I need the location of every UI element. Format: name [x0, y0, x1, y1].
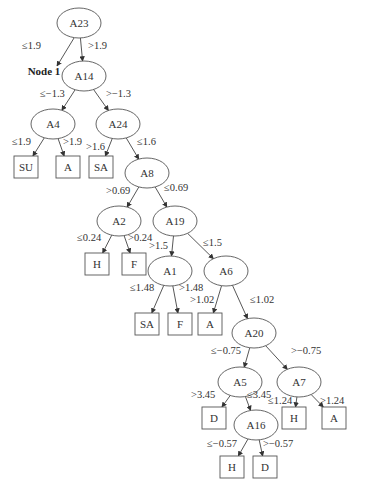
edge-label: >3.45: [191, 389, 215, 400]
edge-n_a16-to-l_h3: [238, 439, 248, 456]
node-label: A4: [46, 118, 60, 130]
edge-label: >1.9: [63, 136, 82, 147]
node-label: A20: [245, 327, 264, 339]
edge-n_a23-to-n_a14: [80, 38, 82, 61]
decision-node-a24: A24: [96, 109, 140, 139]
edge-n_a5-to-l_d1: [222, 395, 230, 407]
node-label: A5: [233, 376, 247, 388]
edge-label: >−0.57: [263, 438, 293, 449]
node-label: A1: [163, 265, 176, 277]
node-label: A2: [112, 215, 125, 227]
edge-n_a19-to-n_a1: [171, 236, 173, 256]
edge-label: ≤−0.75: [211, 345, 241, 356]
edge-n_a20-to-n_a5: [244, 348, 250, 368]
edge-label: ≤1.9: [22, 40, 41, 51]
edge-n_a1-to-l_f2: [173, 286, 178, 313]
leaf-node-h: H: [282, 407, 306, 429]
edge-label: >1.6: [86, 141, 105, 152]
leaf-node-d: D: [202, 407, 226, 429]
leaf-node-a: A: [56, 156, 80, 178]
node-label: A16: [247, 419, 266, 431]
node-label: SA: [94, 161, 108, 173]
node-label: A24: [109, 118, 128, 130]
decision-node-a20: A20: [232, 318, 276, 348]
edge-label: >1.9: [88, 40, 107, 51]
node-label: F: [131, 258, 137, 270]
node-label: A7: [292, 376, 306, 388]
edge-label: >0.69: [106, 185, 130, 196]
node-label: H: [290, 412, 298, 424]
leaf-node-su: SU: [14, 156, 38, 178]
edge-label: >1.24: [320, 395, 345, 406]
edge-n_a6-to-l_a2: [213, 286, 221, 313]
edge-n_a4-to-l_su: [33, 138, 44, 156]
edge-label: >1.02: [190, 294, 214, 305]
edge-n_a23-to-node1: [57, 38, 74, 66]
node-label: A19: [166, 215, 185, 227]
node-label: D: [210, 412, 218, 424]
node-label: A8: [140, 167, 154, 179]
edge-label: >−0.75: [291, 345, 321, 356]
node-label: H: [228, 461, 236, 473]
edge-label: ≤1.5: [203, 237, 222, 248]
node-label: A: [206, 318, 214, 330]
decision-node-a6: A6: [204, 256, 248, 286]
edge-label: ≤0.69: [164, 182, 188, 193]
edge-label: >1.5: [149, 240, 168, 251]
edge-label: >1.48: [179, 282, 203, 293]
node-label: SA: [140, 318, 154, 330]
edge-n_a7-to-l_h2: [296, 397, 297, 407]
edge-label: ≤1.24: [268, 395, 293, 406]
node-label: F: [177, 318, 183, 330]
leaf-node-h: H: [220, 456, 244, 478]
decision-node-a23: A23: [57, 8, 101, 38]
leaf-node-a: A: [198, 313, 222, 335]
node-label: H: [93, 258, 101, 270]
leaf-node-h: H: [85, 253, 109, 275]
leaf-node-d: D: [253, 456, 277, 478]
node-label: A6: [219, 265, 233, 277]
decision-node-a14: A14: [62, 61, 106, 91]
edge-label: >−1.3: [106, 88, 131, 99]
decision-node-a16: A16: [234, 410, 278, 440]
node-label: A23: [70, 17, 89, 29]
decision-node-a4: A4: [31, 109, 75, 139]
edge-label: ≤−1.3: [40, 88, 65, 99]
edge-label: ≤1.02: [250, 294, 274, 305]
node-label: SU: [19, 161, 33, 173]
leaf-node-f: F: [168, 313, 192, 335]
node-label: A: [330, 412, 338, 424]
edge-label: ≤1.6: [137, 136, 156, 147]
leaf-node-sa: SA: [135, 313, 159, 335]
decision-tree-diagram: A23A14A4A24SUASAA8A2A19HFA1A6SAFAA20A5A7…: [0, 0, 366, 490]
edge-n_a24-to-l_sa1: [105, 138, 112, 156]
node-label: A: [64, 161, 72, 173]
edge-label: ≤1.9: [12, 136, 31, 147]
node-label: A14: [75, 70, 94, 82]
nodes-layer: A23A14A4A24SUASAA8A2A19HFA1A6SAFAA20A5A7…: [14, 8, 346, 478]
decision-node-a19: A19: [153, 206, 197, 236]
node-label: D: [261, 461, 269, 473]
edges-layer: [33, 38, 323, 456]
edge-label: ≤0.24: [77, 232, 102, 243]
edge-n_a2-to-l_h1: [103, 235, 112, 253]
edge-label: ≤1.48: [130, 282, 154, 293]
leaf-node-f: F: [122, 253, 146, 275]
edge-n_a20-to-n_a7: [266, 346, 288, 370]
leaf-node-sa: SA: [89, 156, 113, 178]
decision-node-a7: A7: [277, 367, 321, 397]
edge-n_a6-to-n_a20: [232, 285, 247, 318]
leaf-node-a: A: [322, 407, 346, 429]
node-1-annotation: Node 1: [28, 65, 61, 77]
edge-label: ≤−0.57: [207, 438, 237, 449]
decision-node-a8: A8: [125, 158, 169, 188]
